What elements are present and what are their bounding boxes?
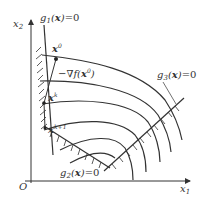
y-axis-label: x2: [13, 18, 24, 31]
x-axis-label: x1: [180, 183, 190, 196]
optimization-diagram: x2 x1 O g1(x)=0 g2(x)=0 g3(x)=0 x0 xk xk…: [0, 0, 207, 205]
constraint-g3: [104, 82, 184, 171]
origin-label: O: [19, 181, 27, 192]
point-xk1: [44, 127, 47, 130]
x0-label: x0: [51, 42, 62, 54]
point-x0: [54, 57, 58, 61]
g1-label: g1(x)=0: [40, 12, 79, 25]
gradient-label: −∇f(x0): [58, 67, 95, 79]
point-xk: [42, 101, 46, 105]
g2-label: g2(x)=0: [60, 167, 99, 180]
xk1-label: xk+1: [47, 123, 66, 135]
xk-label: xk: [47, 91, 58, 103]
g3-label: g3(x)=0: [157, 69, 196, 82]
